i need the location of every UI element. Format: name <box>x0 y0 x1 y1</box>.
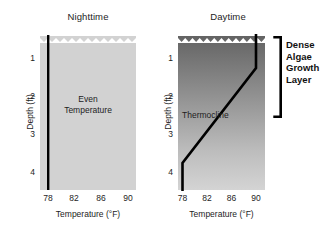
ytick-nighttime-1: 1 <box>30 54 35 63</box>
dense-algae-layer-caption: Dense Algae Growth Layer <box>286 39 319 85</box>
xtick-nighttime-78: 78 <box>43 194 52 203</box>
algae-caption-line1: Dense <box>286 39 319 51</box>
xtick-daytime-78: 78 <box>178 194 187 203</box>
algae-caption-line4: Layer <box>286 74 319 86</box>
annotation-even-temperature: Even Temperature <box>64 94 112 116</box>
ytick-daytime-4: 4 <box>168 168 173 177</box>
ytick-nighttime-4: 4 <box>30 168 35 177</box>
algae-caption-line2: Algae <box>286 51 319 63</box>
panel-nighttime: Nighttime Even Temperature 1 2 3 4 78 82 <box>0 0 165 234</box>
xtick-daytime-82: 82 <box>202 194 211 203</box>
xaxis-label-daytime: Temperature (°F) <box>189 209 253 219</box>
panel-daytime: Daytime Thermocline 1 2 3 4 78 82 86 90 … <box>160 0 329 234</box>
xtick-nighttime-86: 86 <box>96 194 105 203</box>
ytick-daytime-1: 1 <box>168 54 173 63</box>
xtick-daytime-86: 86 <box>227 194 236 203</box>
xaxis-label-nighttime: Temperature (°F) <box>56 209 120 219</box>
panel-title-nighttime: Nighttime <box>0 11 176 22</box>
xtick-nighttime-90: 90 <box>123 194 132 203</box>
annotation-even-temperature-line2: Temperature <box>64 105 112 116</box>
panel-title-daytime: Daytime <box>160 11 296 22</box>
xtick-nighttime-82: 82 <box>69 194 78 203</box>
annotation-even-temperature-line1: Even <box>64 94 112 105</box>
xtick-daytime-90: 90 <box>251 194 260 203</box>
yaxis-label-daytime: Depth (ft) <box>163 85 173 139</box>
dense-algae-layer-bracket-icon <box>272 36 282 118</box>
figure-canvas: Nighttime Even Temperature 1 2 3 4 78 82 <box>0 0 329 234</box>
yaxis-label-nighttime: Depth (ft) <box>25 85 35 139</box>
plot-area-daytime: Thermocline 1 2 3 4 78 82 86 90 Temperat… <box>178 36 265 190</box>
algae-caption-line3: Growth <box>286 62 319 74</box>
plot-area-nighttime: Even Temperature 1 2 3 4 78 82 86 90 Tem… <box>40 36 136 190</box>
annotation-thermocline: Thermocline <box>182 110 229 121</box>
